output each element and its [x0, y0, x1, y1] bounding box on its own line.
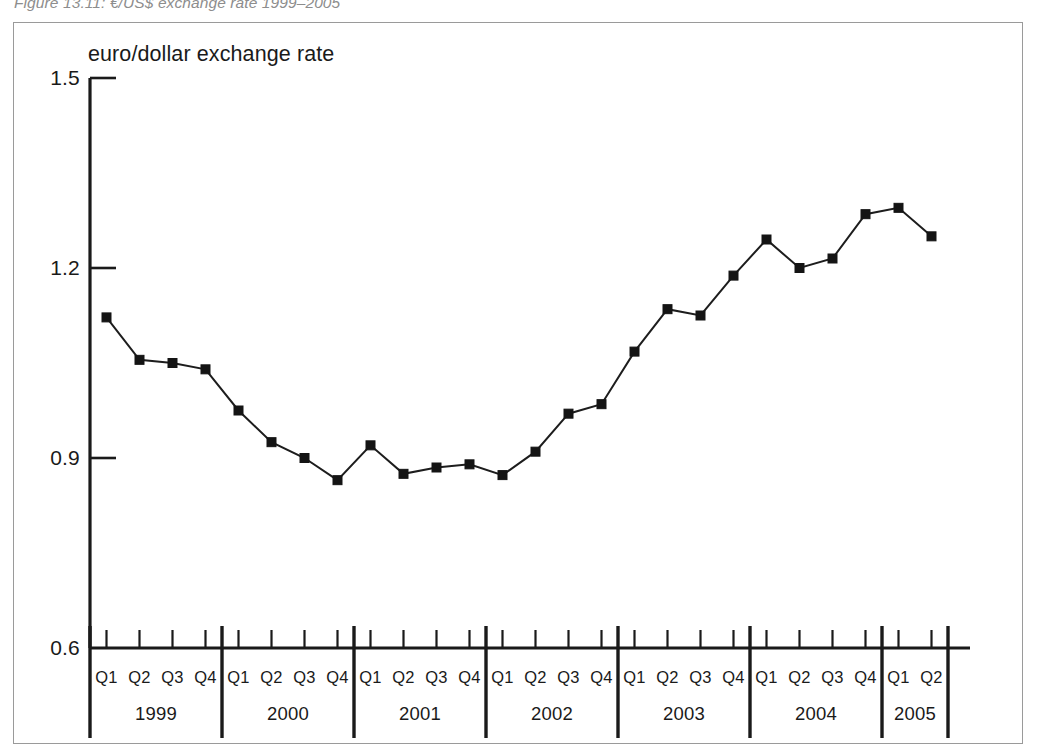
x-axis-quarter-label: Q3: [288, 668, 322, 686]
x-axis-year-label: 2000: [222, 704, 354, 724]
x-axis-quarter-label: Q3: [420, 668, 454, 686]
x-axis-quarter-label: Q4: [717, 668, 751, 686]
x-axis-quarter-label: Q2: [651, 668, 685, 686]
x-axis-quarter-label: Q4: [189, 668, 223, 686]
x-axis-quarter-label: Q3: [552, 668, 586, 686]
x-axis-quarter-label: Q2: [915, 668, 949, 686]
x-axis-quarter-label: Q1: [882, 668, 916, 686]
x-axis-quarter-label: Q1: [486, 668, 520, 686]
x-axis-year-label: 2001: [354, 704, 486, 724]
x-axis-quarter-label: Q3: [816, 668, 850, 686]
x-axis-quarter-label: Q3: [684, 668, 718, 686]
x-axis-quarter-label: Q1: [618, 668, 652, 686]
x-axis-quarter-label: Q1: [750, 668, 784, 686]
x-axis-quarter-label: Q2: [783, 668, 817, 686]
x-axis-year-label: 2003: [618, 704, 750, 724]
figure-caption: Figure 13.11: €/US$ exchange rate 1999–2…: [14, 0, 340, 13]
x-axis-year-label: 2002: [486, 704, 618, 724]
y-axis-tick-label-3: 0.9: [22, 447, 80, 468]
x-axis-year-label: 1999: [90, 704, 222, 724]
x-axis-year-label: 2004: [750, 704, 882, 724]
x-axis-quarter-label: Q1: [354, 668, 388, 686]
x-axis-quarter-label: Q1: [222, 668, 256, 686]
x-axis-quarter-label: Q4: [453, 668, 487, 686]
x-axis-quarter-label: Q3: [156, 668, 190, 686]
y-axis-tick-label-2: 1.2: [22, 257, 80, 278]
x-axis-quarter-label: Q2: [519, 668, 553, 686]
figure-frame: [13, 22, 1023, 744]
x-axis-quarter-label: Q1: [90, 668, 124, 686]
x-axis-quarter-label: Q4: [849, 668, 883, 686]
y-axis-title: euro/dollar exchange rate: [88, 42, 334, 67]
x-axis-quarter-label: Q2: [123, 668, 157, 686]
x-axis-quarter-label: Q2: [255, 668, 289, 686]
y-axis-tick-label-1: 1.5: [22, 67, 80, 88]
x-axis-year-label: 2005: [882, 704, 948, 724]
x-axis-quarter-label: Q4: [321, 668, 355, 686]
x-axis-quarter-label: Q2: [387, 668, 421, 686]
x-axis-quarter-label: Q4: [585, 668, 619, 686]
y-axis-tick-label-4: 0.6: [22, 637, 80, 658]
